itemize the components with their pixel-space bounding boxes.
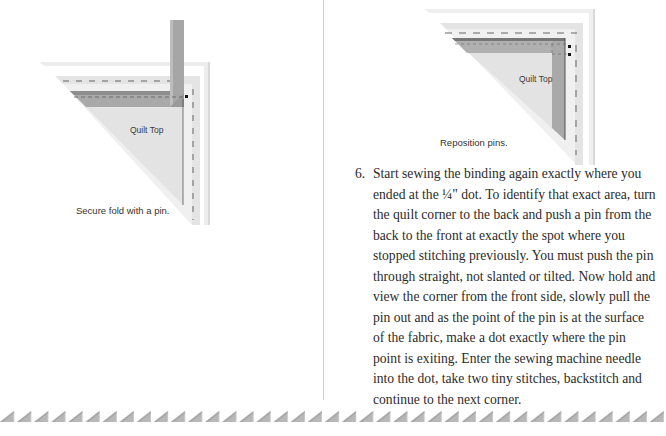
step-line: of the fabric, make a dot exactly where … <box>373 328 660 349</box>
quilt-corner-diagram-icon: Quilt Top <box>30 15 220 225</box>
step-line: ended at the ¼" dot. To identify that ex… <box>373 185 660 206</box>
step-line: Start sewing the binding again exactly w… <box>373 164 660 185</box>
step-line: back to the front at exactly the spot wh… <box>373 226 660 247</box>
instruction-step-6: 6. Start sewing the binding again exactl… <box>355 164 660 410</box>
book-page: Quilt Top Secure fold with a pin. <box>0 0 666 436</box>
figure-label: Quilt Top <box>130 125 164 135</box>
step-line: continue to the next corner. <box>373 390 660 411</box>
column-divider <box>323 0 324 400</box>
triangle-border-icon <box>0 409 666 423</box>
step-line: through straight, not slanted or tilted.… <box>373 267 660 288</box>
step-line: view the corner from the front side, slo… <box>373 287 660 308</box>
figure-caption: Secure fold with a pin. <box>76 205 169 216</box>
figure-label: Quilt Top <box>519 74 553 84</box>
step-line: point is exiting. Enter the sewing machi… <box>373 349 660 370</box>
step-body: Start sewing the binding again exactly w… <box>355 164 660 410</box>
step-line: the quilt corner to the back and push a … <box>373 205 660 226</box>
figure-caption: Reposition pins. <box>440 137 508 148</box>
figure-secure-fold: Quilt Top <box>30 15 220 225</box>
step-line: into the dot, take two tiny stitches, ba… <box>373 369 660 390</box>
step-line: pin out and as the point of the pin is a… <box>373 308 660 329</box>
step-number: 6. <box>355 164 365 185</box>
step-line: stopped stitching previously. You must p… <box>373 246 660 267</box>
sawtooth-border <box>0 409 666 423</box>
